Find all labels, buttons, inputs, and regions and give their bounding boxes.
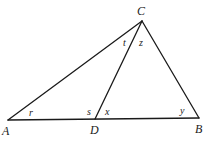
segment-AC [8,21,142,120]
angle-label-r: r [29,107,33,118]
triangle-diagram: A D B C r s x y t z [0,0,206,145]
vertex-label-D: D [89,123,99,137]
angle-label-z: z [138,37,143,48]
vertex-label-A: A [1,124,10,138]
angle-label-y: y [179,105,185,116]
vertex-label-B: B [195,122,203,136]
vertex-label-C: C [137,4,146,18]
segments [8,21,199,120]
segment-AB [8,118,199,120]
angle-label-t: t [123,37,126,48]
angle-label-s: s [87,106,91,117]
segment-CB [142,21,199,118]
angle-label-x: x [104,106,110,117]
segment-CD [95,21,142,119]
angle-labels: r s x y t z [29,37,185,118]
